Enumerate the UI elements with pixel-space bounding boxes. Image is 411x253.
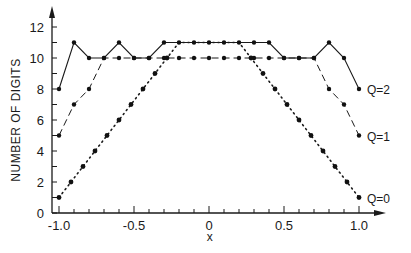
y-tick-label: 12 — [30, 20, 44, 35]
series-q1-marker — [147, 56, 151, 60]
series-q1-marker — [342, 102, 346, 106]
series-q2-marker — [72, 40, 76, 44]
series-q2-marker — [117, 40, 121, 44]
series-q0-marker — [309, 133, 314, 138]
series-q1-marker — [57, 133, 61, 137]
series-q1-marker — [117, 56, 121, 60]
series-q2-marker — [267, 40, 271, 44]
series-q0-marker — [237, 41, 240, 44]
series-q1-marker — [312, 56, 316, 60]
series-q2-line — [59, 43, 359, 90]
series-q1-marker — [237, 56, 241, 60]
series-q1-marker — [327, 87, 331, 91]
series-q1-marker — [192, 56, 196, 60]
series-q0-marker — [93, 149, 98, 154]
series-q0-marker — [207, 41, 210, 44]
y-tick-label: 0 — [37, 206, 44, 221]
series-q0-marker — [117, 118, 122, 123]
y-tick-label: 8 — [37, 82, 44, 97]
y-tick-label: 4 — [37, 144, 44, 159]
series-q2-marker — [252, 40, 256, 44]
series-q2-marker — [162, 40, 166, 44]
labels-group: Q=2Q=1Q=0 — [367, 83, 390, 206]
series-q2-marker — [327, 40, 331, 44]
y-axis-arrow-icon — [49, 6, 55, 18]
series-q0-marker — [81, 164, 86, 169]
series-q1-marker — [267, 56, 271, 60]
y-axis-title: NUMBER OF DIGITS — [9, 58, 23, 181]
series-q0-marker — [165, 56, 170, 61]
series-q1-line — [59, 58, 359, 136]
series-q0-marker — [261, 71, 266, 76]
series-q0-marker — [273, 87, 278, 92]
series-group — [57, 40, 362, 200]
series-q0-marker — [297, 118, 302, 123]
series-q0-marker — [285, 102, 290, 107]
series-q1-marker — [207, 56, 211, 60]
x-tick-label: -1.0 — [48, 218, 70, 233]
series-q1-marker — [87, 87, 91, 91]
x-axis-title: x — [207, 230, 214, 244]
series-q0-marker — [192, 41, 195, 44]
series-q1-marker — [222, 56, 226, 60]
series-q1-marker — [357, 133, 361, 137]
y-tick-label: 2 — [37, 175, 44, 190]
x-tick-label: 0.5 — [275, 218, 293, 233]
series-q2-marker — [357, 87, 361, 91]
series-q1-marker — [72, 102, 76, 106]
series-q0-marker — [141, 87, 146, 92]
x-tick-label: -0.5 — [123, 218, 145, 233]
series-label-q0: Q=0 — [367, 192, 390, 206]
x-axis-arrow-icon — [374, 210, 386, 216]
series-q1-marker — [177, 56, 181, 60]
series-q1-marker — [282, 56, 286, 60]
x-tick-label: 1.0 — [350, 218, 368, 233]
series-q0-marker — [105, 133, 110, 138]
series-q0-marker — [69, 180, 74, 185]
series-q2-marker — [87, 56, 91, 60]
series-label-q2: Q=2 — [367, 83, 390, 97]
series-q0-marker — [129, 102, 134, 107]
series-q0-marker — [333, 164, 338, 169]
series-q0-marker — [57, 195, 62, 200]
chart: 024681012-1.0-0.500.51.0xNUMBER OF DIGIT… — [0, 0, 411, 253]
series-q0-marker — [249, 56, 254, 61]
series-q1-marker — [132, 56, 136, 60]
y-tick-label: 6 — [37, 113, 44, 128]
series-q0-marker — [153, 71, 158, 76]
series-q2-marker — [342, 56, 346, 60]
series-q2-marker — [57, 87, 61, 91]
series-q0-marker — [345, 180, 350, 185]
series-q0-line — [59, 43, 359, 198]
y-tick-label: 10 — [30, 51, 44, 66]
series-label-q1: Q=1 — [367, 130, 390, 144]
series-q1-marker — [102, 56, 106, 60]
series-q0-marker — [357, 195, 362, 200]
series-q1-marker — [297, 56, 301, 60]
series-q0-marker — [177, 41, 180, 44]
series-q0-marker — [321, 149, 326, 154]
series-q0-marker — [222, 41, 225, 44]
